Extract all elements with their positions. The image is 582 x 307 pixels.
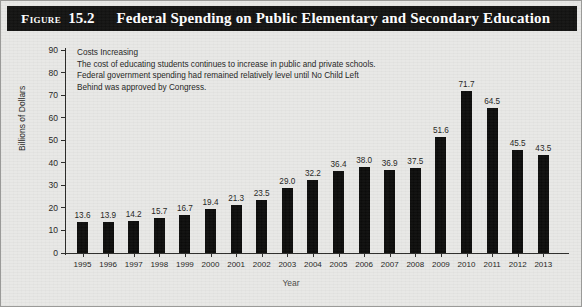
annotation-line: The cost of educating students continues… xyxy=(77,59,407,71)
bar xyxy=(538,155,549,253)
x-tick-label: 2008 xyxy=(406,260,424,269)
x-tick-label: 1996 xyxy=(99,260,117,269)
bar-value-label: 32.2 xyxy=(305,169,321,178)
y-tick-label: 80 xyxy=(49,68,58,78)
figure-title: Federal Spending on Public Elementary an… xyxy=(116,10,550,27)
y-tick-label: 50 xyxy=(49,135,58,145)
bar xyxy=(128,221,139,253)
x-tick-label: 2006 xyxy=(355,260,373,269)
x-tick-label: 2012 xyxy=(509,260,527,269)
bar-value-label: 13.6 xyxy=(75,211,91,220)
x-tick-label: 1997 xyxy=(125,260,143,269)
bar xyxy=(461,91,472,253)
x-tick-label: 2001 xyxy=(227,260,245,269)
bar-value-label: 64.5 xyxy=(484,97,500,106)
bar xyxy=(231,205,242,253)
figure-number: 15.2 xyxy=(68,10,94,27)
bar-group: 37.52008 xyxy=(410,50,421,253)
bar xyxy=(307,180,318,253)
y-tick-label: 20 xyxy=(49,203,58,213)
x-tick-label: 2000 xyxy=(202,260,220,269)
bar xyxy=(179,215,190,253)
bar-value-label: 15.7 xyxy=(151,207,167,216)
y-tick-label: 70 xyxy=(49,90,58,100)
bar-group: 51.62009 xyxy=(435,50,446,253)
bar xyxy=(282,188,293,253)
y-tick-label: 0 xyxy=(53,248,58,258)
bar xyxy=(487,108,498,253)
x-tick-label: 2013 xyxy=(534,260,552,269)
y-tick-label: 60 xyxy=(49,113,58,123)
x-tick-label: 2005 xyxy=(330,260,348,269)
bar-group: 64.52011 xyxy=(487,50,498,253)
bar-value-label: 43.5 xyxy=(535,144,551,153)
bar-value-label: 45.5 xyxy=(510,139,526,148)
bar-value-label: 38.0 xyxy=(356,156,372,165)
bar-group: 45.52012 xyxy=(512,50,523,253)
bar xyxy=(103,222,114,253)
bar xyxy=(359,167,370,253)
y-tick-label: 30 xyxy=(49,180,58,190)
bar-value-label: 37.5 xyxy=(407,157,423,166)
y-tick-label: 40 xyxy=(49,158,58,168)
x-tick-label: 2002 xyxy=(253,260,271,269)
bar xyxy=(384,170,395,253)
bar xyxy=(256,200,267,253)
bar xyxy=(512,150,523,253)
annotation-heading: Costs Increasing xyxy=(77,47,407,59)
bar xyxy=(410,168,421,253)
bar-value-label: 29.0 xyxy=(279,177,295,186)
bar xyxy=(77,222,88,253)
bar-group: 71.72010 xyxy=(461,50,472,253)
y-axis-label: Billions of Dollars xyxy=(17,86,27,151)
bar-value-label: 14.2 xyxy=(126,210,142,219)
x-axis-label: Year xyxy=(1,278,581,288)
bar-value-label: 19.4 xyxy=(203,198,219,207)
bar-value-label: 21.3 xyxy=(228,194,244,203)
chart-annotation: Costs Increasing The cost of educating s… xyxy=(77,47,407,93)
x-tick-label: 1995 xyxy=(74,260,92,269)
x-tick-label: 2010 xyxy=(458,260,476,269)
bar-value-label: 51.6 xyxy=(433,126,449,135)
bar-value-label: 16.7 xyxy=(177,204,193,213)
bar-value-label: 36.4 xyxy=(331,160,347,169)
bar-value-label: 71.7 xyxy=(459,80,475,89)
x-tick-label: 2007 xyxy=(381,260,399,269)
bar-value-label: 23.5 xyxy=(254,189,270,198)
x-tick-label: 2003 xyxy=(278,260,296,269)
y-axis-line xyxy=(65,48,66,255)
figure-container: Figure 15.2 Federal Spending on Public E… xyxy=(0,0,582,307)
bar xyxy=(205,209,216,253)
bar-group: 43.52013 xyxy=(538,50,549,253)
figure-title-bar: Figure 15.2 Federal Spending on Public E… xyxy=(7,6,577,31)
x-axis-line xyxy=(65,253,569,254)
bar-value-label: 13.9 xyxy=(100,211,116,220)
x-tick-label: 2011 xyxy=(483,260,500,269)
y-tick-label: 10 xyxy=(49,225,58,235)
bar xyxy=(154,218,165,253)
bar xyxy=(435,137,446,253)
annotation-line: Federal government spending had remained… xyxy=(77,70,407,82)
bar xyxy=(333,171,344,253)
annotation-line: Behind was approved by Congress. xyxy=(77,82,407,94)
x-tick-label: 1999 xyxy=(176,260,194,269)
x-tick-label: 2004 xyxy=(304,260,322,269)
bar-value-label: 36.9 xyxy=(382,159,398,168)
x-tick-label: 1998 xyxy=(150,260,168,269)
figure-label: Figure xyxy=(21,11,61,27)
y-tick-label: 90 xyxy=(49,45,58,55)
x-tick-label: 2009 xyxy=(432,260,450,269)
